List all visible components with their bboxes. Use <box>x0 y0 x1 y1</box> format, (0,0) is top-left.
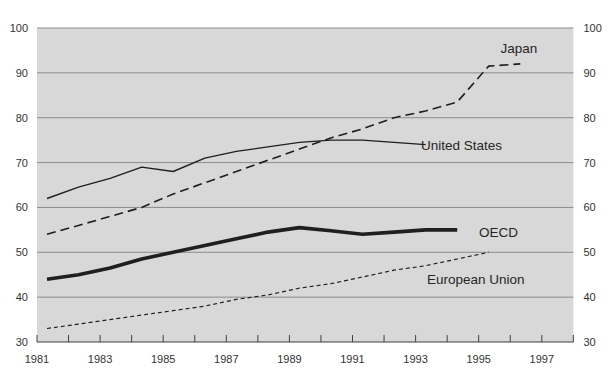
x-tick-label-1995: 1995 <box>466 353 490 365</box>
series-label-japan: Japan <box>501 41 538 56</box>
y-axis-label-right-30: 30 <box>583 336 595 348</box>
y-axis-label-left-50: 50 <box>16 246 28 258</box>
y-axis-label-right-40: 40 <box>583 291 595 303</box>
y-axis-label-right-70: 70 <box>583 157 595 169</box>
chart-canvas: 1981198319851987198919911993199519973030… <box>0 0 616 386</box>
y-axis-label-left-100: 100 <box>10 22 28 34</box>
x-tick-label-1989: 1989 <box>277 353 301 365</box>
series-label-oecd: OECD <box>479 225 518 240</box>
y-axis-label-right-60: 60 <box>583 201 595 213</box>
x-tick-label-1981: 1981 <box>25 353 49 365</box>
y-axis-label-left-90: 90 <box>16 67 28 79</box>
y-axis-label-right-50: 50 <box>583 246 595 258</box>
y-axis-label-right-90: 90 <box>583 67 595 79</box>
y-axis-label-left-70: 70 <box>16 157 28 169</box>
y-axis-label-right-80: 80 <box>583 112 595 124</box>
x-tick-label-1987: 1987 <box>214 353 238 365</box>
y-axis-label-left-80: 80 <box>16 112 28 124</box>
line-chart-figure: 1981198319851987198919911993199519973030… <box>0 0 616 386</box>
x-tick-label-1991: 1991 <box>340 353 364 365</box>
y-axis-label-left-30: 30 <box>16 336 28 348</box>
y-axis-label-left-60: 60 <box>16 201 28 213</box>
series-label-european-union: European Union <box>427 272 525 287</box>
x-tick-label-1993: 1993 <box>403 353 427 365</box>
x-tick-label-1985: 1985 <box>151 353 175 365</box>
x-tick-label-1983: 1983 <box>88 353 112 365</box>
x-tick-label-1997: 1997 <box>530 353 554 365</box>
y-axis-label-right-100: 100 <box>583 22 601 34</box>
y-axis-label-left-40: 40 <box>16 291 28 303</box>
plot-area <box>37 28 573 342</box>
series-label-united-states: United States <box>421 138 502 153</box>
